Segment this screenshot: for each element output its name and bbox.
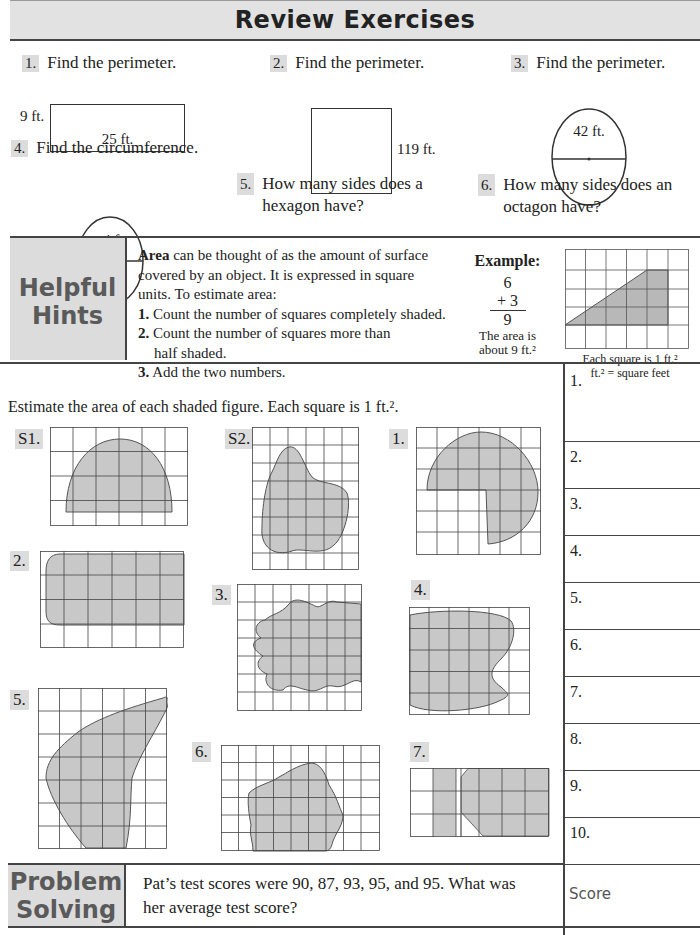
answer-row-1[interactable]: 1. — [565, 364, 700, 442]
item-number: 1. — [22, 55, 39, 72]
answer-row-5[interactable]: 5. — [565, 583, 700, 630]
figure-s1 — [50, 427, 190, 527]
item-number: 4. — [11, 140, 28, 157]
figure-label: 7. — [410, 742, 429, 762]
figure-1 — [416, 427, 542, 557]
answer-column: 1. 2. 3. 4. 5. 6. 7. 8. 9. 10. Score — [565, 364, 700, 927]
answer-row-10[interactable]: 10. — [565, 818, 700, 865]
figure-label: 6. — [192, 742, 211, 762]
figure-7 — [410, 768, 550, 838]
score-box[interactable]: Score — [565, 865, 700, 927]
answer-row-8[interactable]: 8. — [565, 724, 700, 771]
rect-side-label: 9 ft. — [20, 108, 44, 125]
answer-row-7[interactable]: 7. — [565, 677, 700, 724]
example-grid — [565, 249, 695, 349]
problem-solving-label-box: ProblemSolving — [8, 865, 124, 926]
estimate-instruction: Estimate the area of each shaded figure.… — [8, 398, 398, 416]
page-title: Review Exercises — [235, 6, 476, 34]
divider — [124, 865, 126, 926]
review-item-1: 1.Find the perimeter. — [22, 53, 176, 73]
review-item-3: 3.Find the perimeter. — [511, 53, 665, 73]
item-number: 2. — [270, 55, 287, 72]
figure-3 — [237, 584, 363, 712]
page-title-bar: Review Exercises — [10, 0, 700, 41]
item-number: 5. — [237, 173, 254, 195]
review-item-4: 4.Find the circumference. — [11, 138, 198, 158]
figure-2 — [40, 551, 185, 649]
review-item-2: 2.Find the perimeter. — [270, 53, 424, 73]
figure-6 — [221, 745, 381, 853]
answer-row-9[interactable]: 9. — [565, 771, 700, 818]
figure-5 — [38, 688, 168, 850]
divider — [125, 238, 127, 360]
answer-row-2[interactable]: 2. — [565, 442, 700, 489]
review-item-5: 5.How many sides does ahexagon have? — [237, 173, 423, 217]
example-block: Example: 6 + 3 9 The area is about 9 ft.… — [470, 252, 545, 357]
item-number: 6. — [478, 174, 495, 196]
score-label: Score — [569, 885, 611, 903]
figure-label: 3. — [212, 585, 231, 605]
answer-row-6[interactable]: 6. — [565, 630, 700, 677]
figure-4 — [409, 607, 531, 717]
figure-label: 1. — [389, 429, 408, 449]
square-side-label: 119 ft. — [397, 141, 436, 158]
problem-solving-text: Pat’s test scores were 90, 87, 93, 95, a… — [143, 872, 516, 920]
divider — [8, 926, 700, 928]
diameter-label: 42 ft. — [550, 123, 628, 140]
hints-label-box: HelpfulHints — [10, 238, 125, 360]
review-item-6: 6.How many sides does anoctagon have? — [478, 174, 672, 218]
figure-label: S1. — [15, 429, 43, 449]
figure-label: 2. — [10, 551, 29, 571]
figure-s2 — [252, 427, 360, 572]
item-number: 3. — [511, 55, 528, 72]
answer-row-3[interactable]: 3. — [565, 489, 700, 536]
answer-row-4[interactable]: 4. — [565, 536, 700, 583]
figure-label: 5. — [10, 690, 29, 710]
figure-label: 4. — [411, 580, 430, 600]
figure-label: S2. — [225, 429, 253, 449]
